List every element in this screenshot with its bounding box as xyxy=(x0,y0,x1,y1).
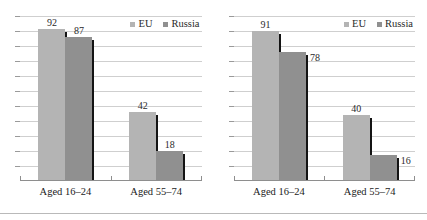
chart-page: 92 87 xyxy=(0,0,427,220)
x-axis-cap-left xyxy=(234,176,235,181)
bar-group: 42 18 xyxy=(111,16,202,181)
x-axis-separator xyxy=(111,176,112,181)
bar-eu[interactable]: 91 xyxy=(252,31,279,181)
bar-shadow xyxy=(397,158,399,181)
square-icon xyxy=(130,22,135,27)
plot-area-left: 92 87 xyxy=(20,16,202,181)
legend-label: Russia xyxy=(171,18,199,30)
bar-eu[interactable]: 92 xyxy=(38,29,65,181)
bar-value-label: 92 xyxy=(47,17,57,28)
bar-slot-eu: 40 xyxy=(343,16,370,181)
bar-slot-russia: 18 xyxy=(156,16,183,181)
bar-russia[interactable]: 78 xyxy=(279,52,306,181)
bar-value-label: 91 xyxy=(260,19,270,30)
bar-shadow xyxy=(92,40,94,181)
bar-groups-left: 92 87 xyxy=(20,16,202,181)
bar-value-label: 40 xyxy=(351,103,361,114)
bar-slot-eu: 91 xyxy=(252,16,279,181)
square-icon xyxy=(344,22,349,27)
bar-russia[interactable]: 16 xyxy=(370,155,397,181)
legend-label: EU xyxy=(352,18,366,30)
bar-groups-right: 91 78 xyxy=(234,16,416,181)
legend-right: EU Russia xyxy=(344,18,413,30)
page-divider-rule xyxy=(0,213,427,214)
bar-group: 40 16 xyxy=(324,16,415,181)
bar-shadow xyxy=(306,55,308,181)
bar-slot-russia: 78 xyxy=(279,16,306,181)
square-icon xyxy=(163,22,168,27)
x-axis-cap-left xyxy=(20,176,21,181)
legend-item-russia[interactable]: Russia xyxy=(377,18,413,30)
legend-item-russia[interactable]: Russia xyxy=(163,18,199,30)
chart-pair: 92 87 xyxy=(0,0,427,205)
bar-slot-eu: 92 xyxy=(38,16,65,181)
square-icon xyxy=(377,22,382,27)
bar-value-label: 78 xyxy=(310,52,320,63)
bar-slot-eu: 42 xyxy=(129,16,156,181)
category-label: Aged 16–24 xyxy=(234,183,325,201)
x-axis-cap-right xyxy=(414,176,415,181)
category-labels-left: Aged 16–24 Aged 55–74 xyxy=(20,183,202,201)
legend-left: EU Russia xyxy=(130,18,199,30)
bar-slot-russia: 16 xyxy=(370,16,397,181)
bar-eu[interactable]: 42 xyxy=(129,112,156,181)
legend-label: EU xyxy=(138,18,152,30)
bar-group: 92 87 xyxy=(20,16,111,181)
bar-value-label: 16 xyxy=(401,155,411,166)
bar-eu[interactable]: 40 xyxy=(343,115,370,181)
chart-left: 92 87 xyxy=(0,0,214,205)
category-labels-right: Aged 16–24 Aged 55–74 xyxy=(234,183,416,201)
bar-slot-russia: 87 xyxy=(65,16,92,181)
bars: 91 78 xyxy=(234,16,325,181)
category-label: Aged 16–24 xyxy=(20,183,111,201)
category-label: Aged 55–74 xyxy=(111,183,202,201)
bar-russia[interactable]: 18 xyxy=(156,151,183,181)
legend-label: Russia xyxy=(385,18,413,30)
bars: 40 16 xyxy=(324,16,415,181)
legend-item-eu[interactable]: EU xyxy=(130,18,152,30)
x-axis-separator xyxy=(324,176,325,181)
bar-group: 91 78 xyxy=(234,16,325,181)
bar-russia[interactable]: 87 xyxy=(65,37,92,181)
x-axis-cap-right xyxy=(201,176,202,181)
category-label: Aged 55–74 xyxy=(324,183,415,201)
bar-shadow xyxy=(183,154,185,181)
legend-item-eu[interactable]: EU xyxy=(344,18,366,30)
bar-value-label: 42 xyxy=(138,100,148,111)
bar-value-label: 87 xyxy=(74,25,84,36)
plot-area-right: 91 78 xyxy=(234,16,416,181)
bar-value-label: 18 xyxy=(165,139,175,150)
chart-right: 91 78 xyxy=(214,0,427,205)
bars: 92 87 xyxy=(20,16,111,181)
bars: 42 18 xyxy=(111,16,202,181)
